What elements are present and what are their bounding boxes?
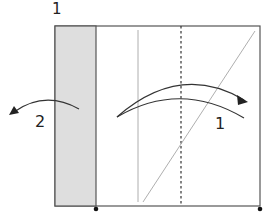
fold-label-1: 1 (215, 116, 225, 131)
reference-dot (94, 207, 99, 212)
arrow-head-icon (9, 106, 19, 115)
reference-dot (258, 207, 263, 212)
fold-label-2: 2 (35, 114, 45, 129)
diagram-canvas (0, 0, 269, 218)
step-number: 1 (52, 2, 62, 17)
shaded-flap (55, 26, 96, 206)
origami-fold-diagram: 1 2 1 (0, 0, 269, 218)
